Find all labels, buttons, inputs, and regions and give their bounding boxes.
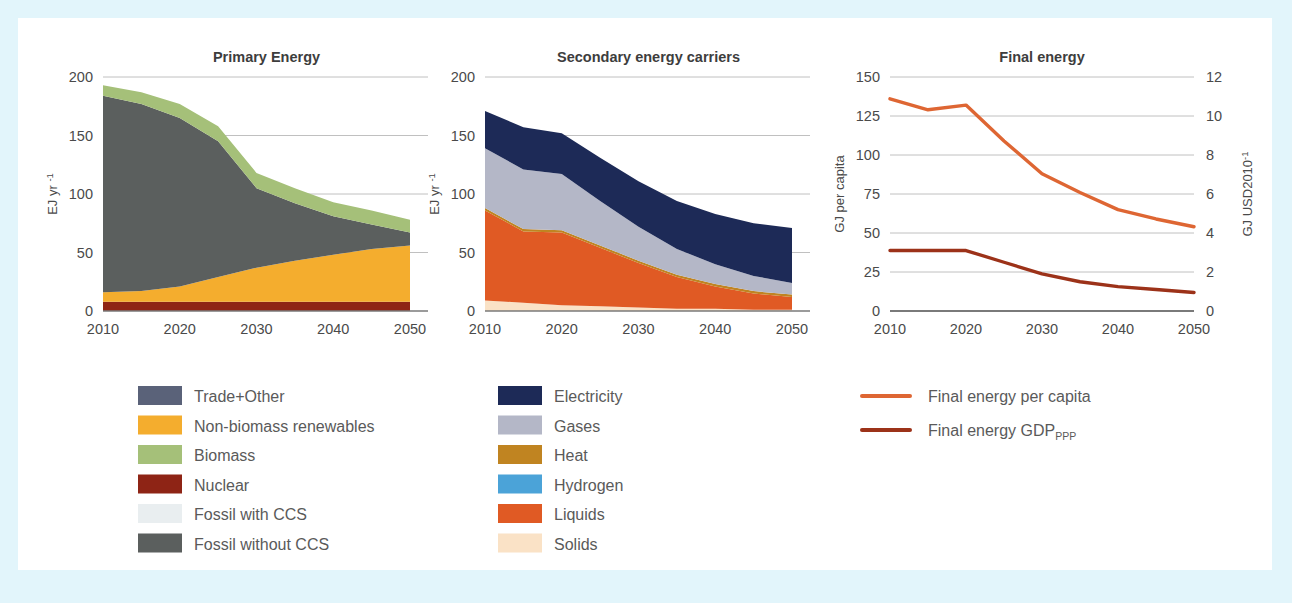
legend-label-fossil-with-ccs: Fossil with CCS	[194, 506, 307, 523]
ytick-secondary-energy-carriers-0: 0	[467, 303, 475, 319]
ytick-right-4: 4	[1206, 225, 1214, 241]
xtick-final-energy-2020: 2020	[950, 321, 982, 337]
legend-swatch-nuclear	[138, 475, 182, 494]
legend-swatch-hydrogen	[498, 475, 542, 494]
legend-item-final-energy-per-capita[interactable]: Final energy per capita	[860, 388, 1091, 405]
legend-swatch-final-energy-per-capita	[860, 394, 912, 398]
legend-label-solids: Solids	[554, 536, 598, 553]
xtick-secondary-energy-carriers-2010: 2010	[469, 321, 501, 337]
ytick-right-10: 10	[1206, 108, 1222, 124]
legend-swatch-heat	[498, 445, 542, 464]
yaxis-title-right: GJ USD2010-1	[1239, 151, 1255, 236]
legend-item-hydrogen[interactable]: Hydrogen	[498, 475, 623, 494]
xtick-final-energy-2030: 2030	[1026, 321, 1058, 337]
xtick-final-energy-2050: 2050	[1178, 321, 1210, 337]
xtick-secondary-energy-carriers-2040: 2040	[699, 321, 731, 337]
yaxis-title-right-text: GJ USD2010-1	[1239, 151, 1255, 236]
legend-swatch-non-biomass-renewables	[138, 416, 182, 435]
legend-swatch-solids	[498, 534, 542, 553]
ytick-secondary-energy-carriers-150: 150	[451, 128, 475, 144]
legend-swatch-liquids	[498, 504, 542, 523]
ytick-right-12: 12	[1206, 69, 1222, 85]
legend-item-heat[interactable]: Heat	[498, 445, 588, 464]
legend-item-biomass[interactable]: Biomass	[138, 445, 255, 464]
ytick-primary-energy-50: 50	[77, 245, 93, 261]
legend-item-final-energy-gdp[interactable]: Final energy GDPPPP	[860, 422, 1076, 442]
ytick-secondary-energy-carriers-100: 100	[451, 186, 475, 202]
legend-item-nuclear[interactable]: Nuclear	[138, 475, 250, 494]
ytick-right-2: 2	[1206, 264, 1214, 280]
yaxis-title-text-secondary-energy-carriers: EJ yr -1	[426, 173, 442, 215]
legend-label-hydrogen: Hydrogen	[554, 477, 623, 494]
line-final-energy-final-energy-per-capita	[890, 99, 1194, 227]
xtick-secondary-energy-carriers-2020: 2020	[546, 321, 578, 337]
legend-item-electricity[interactable]: Electricity	[498, 386, 622, 405]
chart-title-secondary-energy-carriers: Secondary energy carriers	[557, 49, 740, 65]
legend-label-nuclear: Nuclear	[194, 477, 250, 494]
ytick-left-50: 50	[864, 225, 880, 241]
legend-item-fossil-with-ccs[interactable]: Fossil with CCS	[138, 504, 307, 523]
area-primary-energy-nuclear	[103, 302, 410, 311]
yaxis-title-text-primary-energy: EJ yr -1	[44, 173, 60, 215]
legend-label-biomass: Biomass	[194, 447, 255, 464]
line-final-energy-final-energy-gdp-ppp	[890, 251, 1194, 293]
ytick-primary-energy-100: 100	[69, 186, 93, 202]
legend-item-non-biomass-renewables[interactable]: Non-biomass renewables	[138, 416, 375, 435]
ytick-right-8: 8	[1206, 147, 1214, 163]
xtick-primary-energy-2030: 2030	[240, 321, 272, 337]
legend-label-gases: Gases	[554, 418, 600, 435]
yaxis-title-left: GJ per capita	[832, 155, 847, 233]
ytick-left-150: 150	[856, 69, 880, 85]
legend-item-fossil-without-ccs[interactable]: Fossil without CCS	[138, 534, 329, 553]
legend-swatch-gases	[498, 416, 542, 435]
ytick-left-125: 125	[856, 108, 880, 124]
ytick-left-100: 100	[856, 147, 880, 163]
legend-label-final-energy-gdp: Final energy GDPPPP	[928, 422, 1076, 442]
yaxis-title-secondary-energy-carriers: EJ yr -1	[426, 173, 442, 215]
legend-swatch-fossil-without-ccs	[138, 534, 182, 553]
legend-label-liquids: Liquids	[554, 506, 605, 523]
xtick-final-energy-2040: 2040	[1102, 321, 1134, 337]
yaxis-title-primary-energy: EJ yr -1	[44, 173, 60, 215]
chart-title-final-energy: Final energy	[999, 49, 1084, 65]
chart-title-primary-energy: Primary Energy	[213, 49, 320, 65]
legend-item-gases[interactable]: Gases	[498, 416, 600, 435]
legend-label-trade-other: Trade+Other	[194, 388, 285, 405]
figure-panel: Primary Energy05010015020020102020203020…	[18, 18, 1272, 570]
ytick-right-0: 0	[1206, 303, 1214, 319]
ytick-primary-energy-200: 200	[69, 69, 93, 85]
xtick-secondary-energy-carriers-2050: 2050	[776, 321, 808, 337]
legend-swatch-final-energy-gdp	[860, 428, 912, 432]
legend-label-heat: Heat	[554, 447, 588, 464]
xtick-primary-energy-2010: 2010	[87, 321, 119, 337]
legend-swatch-fossil-with-ccs	[138, 504, 182, 523]
legend-item-solids[interactable]: Solids	[498, 534, 598, 553]
ytick-secondary-energy-carriers-200: 200	[451, 69, 475, 85]
ytick-right-6: 6	[1206, 186, 1214, 202]
legend-swatch-biomass	[138, 445, 182, 464]
ytick-primary-energy-0: 0	[85, 303, 93, 319]
ytick-secondary-energy-carriers-50: 50	[459, 245, 475, 261]
xtick-final-energy-2010: 2010	[874, 321, 906, 337]
ytick-left-0: 0	[872, 303, 880, 319]
ytick-primary-energy-150: 150	[69, 128, 93, 144]
energy-scenario-figure: Primary Energy05010015020020102020203020…	[18, 18, 1272, 570]
xtick-primary-energy-2050: 2050	[394, 321, 426, 337]
legend-label-fossil-without-ccs: Fossil without CCS	[194, 536, 329, 553]
ytick-left-75: 75	[864, 186, 880, 202]
legend-item-liquids[interactable]: Liquids	[498, 504, 605, 523]
legend-swatch-electricity	[498, 386, 542, 405]
xtick-secondary-energy-carriers-2030: 2030	[622, 321, 654, 337]
legend-label-electricity: Electricity	[554, 388, 622, 405]
xtick-primary-energy-2040: 2040	[317, 321, 349, 337]
legend-item-trade-other[interactable]: Trade+Other	[138, 386, 285, 405]
legend-label-final-energy-per-capita: Final energy per capita	[928, 388, 1091, 405]
legend-label-non-biomass-renewables: Non-biomass renewables	[194, 418, 375, 435]
ytick-left-25: 25	[864, 264, 880, 280]
legend-swatch-trade-other	[138, 386, 182, 405]
yaxis-title-left-text: GJ per capita	[832, 155, 847, 233]
xtick-primary-energy-2020: 2020	[164, 321, 196, 337]
